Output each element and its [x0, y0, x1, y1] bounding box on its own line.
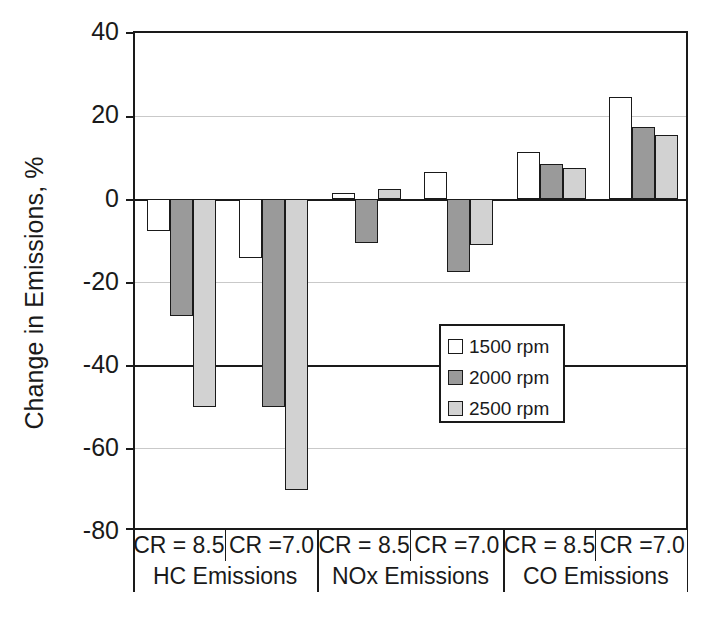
dark-gray-swatch-icon: [448, 370, 463, 385]
y-tick-label-20: 20: [91, 102, 119, 127]
bar-1500-rpm-cat-2: [332, 193, 355, 199]
legend-label-2000: 2000 rpm: [469, 368, 549, 387]
bar-2500-rpm-cat-5: [655, 135, 678, 199]
y-tick-mark-m40: [126, 365, 135, 367]
bar-2500-rpm-cat-1: [285, 199, 308, 490]
y-tick-mark-0: [126, 199, 135, 201]
plot-area: 1500 rpm 2000 rpm 2500 rpm: [133, 31, 688, 530]
y-axis-labels: 40 20 0 -20 -40 -60 -80: [0, 31, 133, 530]
y-tick-label-0: 0: [105, 186, 119, 211]
y-tick-label-m60: -60: [83, 435, 119, 460]
legend-item-2500-rpm[interactable]: 2500 rpm: [448, 393, 557, 424]
bar-1500-rpm-cat-5: [609, 97, 632, 199]
legend-label-2500: 2500 rpm: [469, 399, 549, 418]
bar-2500-rpm-cat-4: [563, 168, 586, 199]
y-tick-label-m20: -20: [83, 269, 119, 294]
cr-label-row: CR = 8.5CR =7.0CR = 8.5CR =7.0CR = 8.5CR…: [133, 530, 688, 561]
cr-label-cell-0: CR = 8.5: [133, 530, 226, 561]
y-tick-mark-20: [126, 116, 135, 118]
legend-label-1500: 1500 rpm: [469, 337, 549, 356]
y-tick-label-m80: -80: [83, 518, 119, 543]
cr-label-cell-4: CR = 8.5: [504, 530, 597, 561]
bar-2000-rpm-cat-0: [170, 199, 193, 315]
group-label-cell-2: CO Emissions: [504, 561, 688, 592]
white-swatch-icon: [448, 339, 463, 354]
bar-series-layer: [135, 33, 686, 528]
y-tick-mark-40: [126, 32, 135, 34]
group-label-cell-1: NOx Emissions: [318, 561, 503, 592]
bar-2000-rpm-cat-4: [540, 164, 563, 199]
legend-item-1500-rpm[interactable]: 1500 rpm: [448, 331, 557, 362]
legend-item-2000-rpm[interactable]: 2000 rpm: [448, 362, 557, 393]
bar-1500-rpm-cat-3: [424, 172, 447, 199]
legend: 1500 rpm 2000 rpm 2500 rpm: [439, 324, 565, 423]
light-gray-swatch-icon: [448, 401, 463, 416]
group-label-cell-0: HC Emissions: [133, 561, 318, 592]
cr-label-cell-2: CR = 8.5: [318, 530, 411, 561]
cr-label-cell-1: CR =7.0: [226, 530, 319, 561]
y-tick-label-m40: -40: [83, 352, 119, 377]
y-tick-mark-m20: [126, 282, 135, 284]
y-tick-mark-m60: [126, 448, 135, 450]
bar-2000-rpm-cat-2: [355, 199, 378, 243]
y-tick-label-40: 40: [91, 19, 119, 44]
bar-2000-rpm-cat-1: [262, 199, 285, 407]
x-axis-label-table: CR = 8.5CR =7.0CR = 8.5CR =7.0CR = 8.5CR…: [133, 530, 688, 592]
bar-2000-rpm-cat-3: [447, 199, 470, 272]
group-label-row: HC EmissionsNOx EmissionsCO Emissions: [133, 561, 688, 592]
bar-2000-rpm-cat-5: [632, 127, 655, 200]
cr-label-cell-5: CR =7.0: [596, 530, 688, 561]
bar-1500-rpm-cat-4: [517, 152, 540, 200]
bar-2500-rpm-cat-2: [378, 189, 401, 199]
emissions-bar-chart: Change in Emissions, % 40 20 0 -20 -40 -…: [0, 0, 709, 628]
bar-1500-rpm-cat-1: [239, 199, 262, 257]
bar-1500-rpm-cat-0: [147, 199, 170, 230]
cr-label-cell-3: CR =7.0: [411, 530, 504, 561]
bar-2500-rpm-cat-0: [193, 199, 216, 407]
bar-2500-rpm-cat-3: [470, 199, 493, 245]
